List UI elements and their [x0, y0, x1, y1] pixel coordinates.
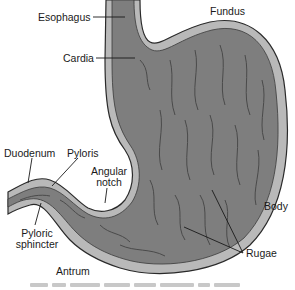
stomach-diagram: Esophagus Fundus Cardia Duodenum Pyloris…	[0, 0, 295, 290]
label-pyloric-sphincter-line2: sphincter	[16, 238, 59, 250]
faded-caption	[30, 282, 260, 288]
label-antrum: Antrum	[56, 266, 90, 277]
label-body: Body	[264, 201, 288, 212]
label-pyloris: Pyloris	[67, 148, 99, 159]
label-rugae: Rugae	[246, 248, 277, 259]
label-angular-notch: Angular notch	[87, 166, 131, 188]
label-esophagus: Esophagus	[38, 12, 91, 23]
label-cardia: Cardia	[63, 53, 94, 64]
label-fundus: Fundus	[210, 6, 245, 17]
label-pyloric-sphincter: Pyloric sphincter	[12, 228, 62, 250]
label-angular-notch-line2: notch	[96, 176, 122, 188]
label-duodenum: Duodenum	[4, 148, 55, 159]
